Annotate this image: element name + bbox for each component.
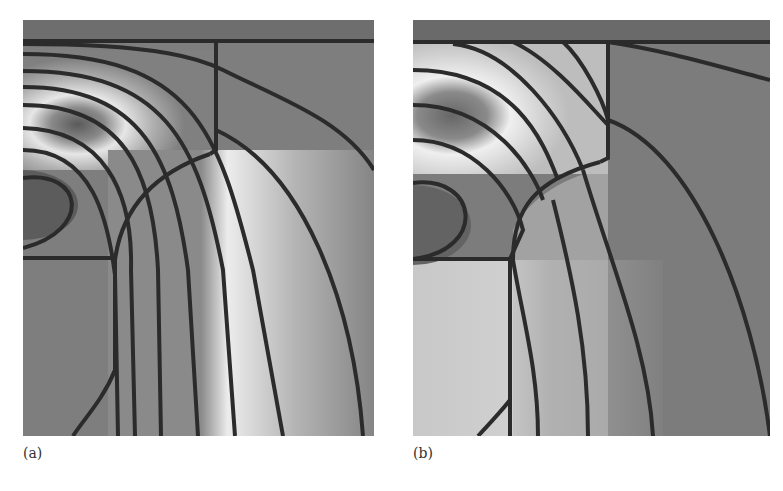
- panel-b-label: (b): [413, 445, 433, 461]
- panel-b: [413, 20, 770, 436]
- panel-a-label: (a): [23, 445, 42, 461]
- field-plot-a: [23, 20, 374, 436]
- panel-a: [23, 20, 374, 436]
- field-plot-b: [413, 20, 770, 436]
